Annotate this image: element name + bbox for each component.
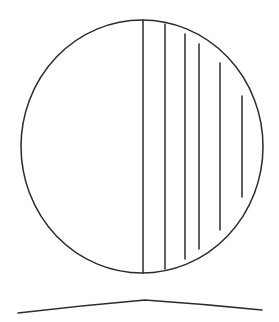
figure-canvas [0,0,279,322]
diagram-svg [0,0,279,322]
